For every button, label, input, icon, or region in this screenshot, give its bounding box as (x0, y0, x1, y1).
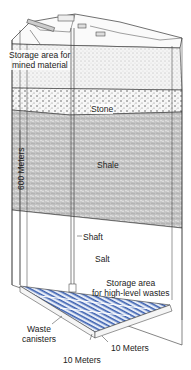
surface-block (12, 14, 182, 48)
label-dimension-10m-width: 10 Meters (111, 343, 149, 353)
label-waste-canisters: Waste canisters (22, 324, 56, 344)
label-storage-mined-material: Storage area for mined material (9, 50, 70, 70)
label-shaft: Shaft (83, 232, 103, 242)
label-line: Storage area for (9, 50, 70, 60)
label-dimension-10m-length: 10 Meters (63, 355, 101, 365)
label-depth-600-meters: 600 Meters (16, 147, 26, 190)
label-line: mined material (9, 60, 70, 70)
label-storage-high-level-wastes: Storage area for high-level wastes (92, 278, 169, 298)
label-stone: Stone (91, 104, 113, 114)
label-line: Storage area (92, 278, 169, 288)
label-salt: Salt (95, 254, 110, 264)
label-line: for high-level wastes (92, 288, 169, 298)
label-line: canisters (22, 334, 56, 344)
label-shale: Shale (97, 160, 119, 170)
label-line: Waste (22, 324, 56, 334)
